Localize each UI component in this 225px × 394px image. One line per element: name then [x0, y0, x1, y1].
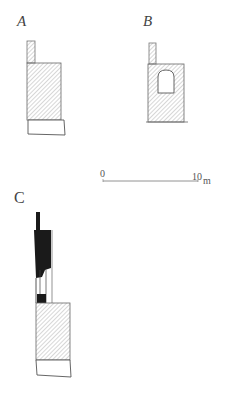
plinth-c	[36, 360, 71, 377]
chimney-b	[149, 43, 156, 64]
scale-end-label: 10	[192, 171, 202, 182]
chimney-a	[27, 41, 35, 63]
figure-c	[34, 212, 71, 377]
solid-block-c	[37, 294, 46, 303]
scale-bar	[103, 179, 198, 182]
chimney-c	[36, 212, 40, 232]
figure-a	[27, 41, 65, 135]
solid-upper-c	[34, 230, 51, 278]
scale-unit-label: m	[203, 175, 211, 186]
wall-c	[36, 303, 70, 360]
figure-b	[146, 43, 188, 122]
wall-a	[27, 63, 61, 120]
arched-window-b	[158, 70, 174, 93]
scale-start-label: 0	[100, 168, 105, 179]
drawing-canvas	[0, 0, 225, 394]
plinth-a	[28, 120, 65, 135]
